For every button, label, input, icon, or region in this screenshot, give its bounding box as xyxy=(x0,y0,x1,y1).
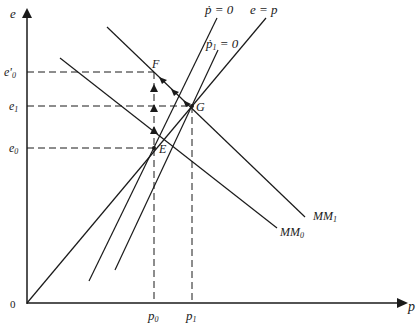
y-axis xyxy=(22,8,32,304)
tick-p-1: p1 xyxy=(185,308,197,324)
guide-lines xyxy=(27,72,192,303)
label-mm1: MM1 xyxy=(312,209,337,224)
point-e-dot xyxy=(152,146,156,150)
tick-e-0: e0 xyxy=(9,141,18,156)
arrow-up-icon xyxy=(150,104,158,112)
curve-mm1 xyxy=(107,27,305,217)
point-e-label: E xyxy=(158,142,167,156)
x-axis xyxy=(27,298,408,308)
label-pdot1-zero: ṗ1 = 0 xyxy=(205,36,239,52)
label-mm0: MM0 xyxy=(279,225,304,240)
curve-mm0 xyxy=(60,58,277,228)
y-axis-label: e xyxy=(10,6,16,21)
tick-e-1: e1 xyxy=(9,99,18,114)
y-axis-arrow-icon xyxy=(22,8,32,18)
x-axis-arrow-icon xyxy=(397,298,408,308)
tick-e-prime-0: e'0 xyxy=(4,65,16,80)
point-g-label: G xyxy=(196,100,205,114)
label-e-equals-p: e = p xyxy=(250,2,278,17)
arrow-up-icon xyxy=(150,84,158,92)
label-pdot-zero: ṗ = 0 xyxy=(204,2,234,17)
jump-arrows xyxy=(150,84,158,134)
phase-diagram: e p 0 e'0 e1 e0 p0 p1 ṗ = 0 e = p ṗ1 = 0… xyxy=(0,0,417,326)
point-g-dot xyxy=(190,104,194,108)
point-f-label: F xyxy=(151,57,160,71)
x-axis-label: p xyxy=(407,299,415,314)
origin-label: 0 xyxy=(10,298,16,310)
tick-p-0: p0 xyxy=(147,308,159,324)
curve-pdot1-zero xyxy=(115,50,218,270)
